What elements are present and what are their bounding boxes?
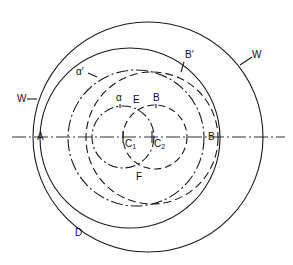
- label-c1: C1: [125, 139, 136, 150]
- label-alpha: α: [116, 93, 122, 103]
- label-b-prime: B′: [185, 50, 194, 60]
- label-w-right: W: [252, 50, 261, 60]
- label-alpha-prime: α′: [76, 67, 84, 77]
- label-f: F: [136, 172, 142, 182]
- label-d: D: [75, 228, 82, 238]
- leader-w-right: [240, 57, 252, 65]
- circle-alpha-prime: [68, 70, 204, 206]
- label-b-axis: B: [208, 132, 215, 142]
- leader-alpha-prime: [88, 73, 97, 77]
- label-c1-subscript: 1: [132, 143, 136, 150]
- label-a: A: [37, 132, 44, 142]
- diagram-canvas: W W α′ B′ α E B A C1 C2 B F D: [0, 0, 293, 265]
- label-c2-subscript: 2: [161, 143, 165, 150]
- label-e: E: [133, 95, 140, 105]
- label-c2: C2: [154, 139, 165, 150]
- label-w-left: W: [17, 94, 26, 104]
- label-b: B: [153, 93, 160, 103]
